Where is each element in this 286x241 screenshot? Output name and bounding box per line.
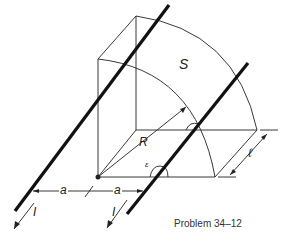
wire-left: [15, 5, 169, 211]
radius-label: R: [139, 135, 148, 149]
radius-line-2: [98, 130, 136, 177]
dimension-tick: [85, 186, 93, 197]
distance-a-right-label: a: [113, 183, 122, 197]
angle-label: ε: [145, 160, 149, 169]
length-label: ℓ: [248, 146, 252, 160]
arrowhead-a-right: [137, 189, 143, 193]
current-left-label: I: [33, 205, 36, 219]
figure-caption: Problem 34–12: [174, 218, 242, 229]
top-edge: [98, 16, 136, 59]
distance-a-left-label: a: [59, 183, 68, 197]
arrowhead-a-left: [33, 189, 39, 193]
origin-dot: [96, 175, 101, 180]
arrowhead-radius: [180, 107, 186, 113]
diagram-canvas: [0, 0, 286, 241]
surface-label: S: [179, 56, 188, 72]
current-right-label: I: [112, 205, 115, 219]
